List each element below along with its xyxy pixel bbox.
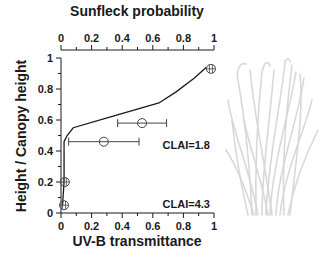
bottom-tick-label: 1	[211, 220, 217, 232]
data-point	[118, 119, 167, 128]
top-tick-label: 0.6	[145, 32, 160, 44]
top-tick-label: 0.4	[115, 32, 131, 44]
left-tick-label: 1	[47, 52, 53, 64]
bottom-tick-label: 0	[58, 220, 64, 232]
top-tick-label: 0	[58, 32, 64, 44]
bottom-tick-label: 0.8	[176, 220, 191, 232]
sunfleck-probability-line	[63, 67, 207, 205]
profile-polyline	[63, 67, 207, 205]
top-axis: 00.20.40.60.81	[58, 32, 217, 50]
top-axis-title: Sunfleck probability	[70, 3, 204, 19]
data-point	[206, 64, 215, 73]
top-tick-label: 0.2	[84, 32, 99, 44]
left-axis-title: Height / Canopy height	[13, 59, 29, 212]
bottom-tick-label: 0.2	[84, 220, 99, 232]
grass-blade	[237, 64, 252, 215]
left-tick-label: 0.6	[38, 114, 53, 126]
chart-svg: 00.20.40.60.81 00.20.40.60.81 00.20.40.6…	[0, 0, 331, 258]
bottom-tick-label: 0.6	[145, 220, 160, 232]
bottom-tick-label: 0.4	[115, 220, 131, 232]
data-point	[69, 137, 139, 146]
uvb-transmittance-points	[60, 64, 216, 209]
left-tick-label: 0.4	[38, 145, 54, 157]
data-point	[60, 178, 69, 187]
clai-lower-label: CLAI=4.3	[163, 198, 210, 210]
chart-figure: 00.20.40.60.81 00.20.40.60.81 00.20.40.6…	[0, 0, 331, 258]
grass-blade	[288, 130, 318, 215]
left-tick-label: 0.8	[38, 83, 53, 95]
data-point	[60, 201, 69, 210]
bottom-axis-title: UV-B transmittance	[72, 233, 201, 249]
left-tick-label: 0.2	[38, 176, 53, 188]
grass-canopy-illustration	[226, 59, 318, 215]
top-tick-label: 1	[211, 32, 217, 44]
clai-upper-label: CLAI=1.8	[163, 139, 210, 151]
left-axis: 00.20.40.60.81	[38, 52, 61, 219]
left-tick-label: 0	[47, 207, 53, 219]
bottom-axis: 00.20.40.60.81	[58, 213, 217, 232]
top-tick-label: 0.8	[176, 32, 191, 44]
